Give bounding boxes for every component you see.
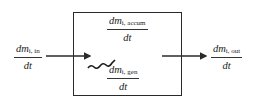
accumulation-rate-label: dmi, accum dt	[107, 16, 148, 44]
outlet-rate-label: dmi, out dt	[211, 44, 242, 72]
inlet-rate-label: dmi, in dt	[14, 44, 42, 72]
generation-rate-label: dmi, gen dt	[107, 65, 139, 93]
